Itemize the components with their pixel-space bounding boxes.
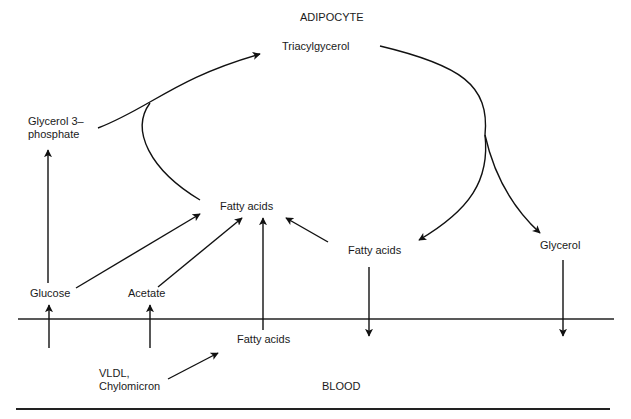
pathway-diagram xyxy=(0,0,631,419)
node-glycerol-3-phosphate: Glycerol 3– phosphate xyxy=(28,115,84,141)
arrow-vldl-to-fablood xyxy=(168,353,218,379)
node-vldl-line1: VLDL, xyxy=(99,367,160,380)
node-glycerol: Glycerol xyxy=(540,239,580,252)
node-glycerol-3-phosphate-line1: Glycerol 3– xyxy=(28,115,84,128)
node-vldl-line2: Chylomicron xyxy=(99,380,160,393)
node-fatty-acids-center: Fatty acids xyxy=(220,200,273,213)
arrow-fa-to-tag-loop xyxy=(142,103,200,200)
arrow-tag-to-glycerol xyxy=(485,135,540,233)
compartment-label-blood: BLOOD xyxy=(322,380,361,393)
node-glycerol-3-phosphate-line2: phosphate xyxy=(28,128,84,141)
arrow-faright-to-fa xyxy=(286,218,328,242)
compartment-label-adipocyte: ADIPOCYTE xyxy=(300,11,364,24)
arrow-glucose-to-fa xyxy=(76,214,200,288)
node-fatty-acids-blood: Fatty acids xyxy=(237,333,290,346)
node-glucose: Glucose xyxy=(30,287,70,300)
node-vldl-chylomicron: VLDL, Chylomicron xyxy=(99,367,160,393)
arrow-tag-to-fa-right xyxy=(419,135,486,240)
node-fatty-acids-right: Fatty acids xyxy=(348,244,401,257)
arrow-g3p-to-tag xyxy=(98,54,260,128)
curve-tag-lipolysis xyxy=(380,46,486,135)
node-acetate: Acetate xyxy=(128,287,165,300)
arrow-acetate-to-fa xyxy=(158,218,242,287)
node-triacylglycerol: Triacylgycerol xyxy=(282,40,349,53)
